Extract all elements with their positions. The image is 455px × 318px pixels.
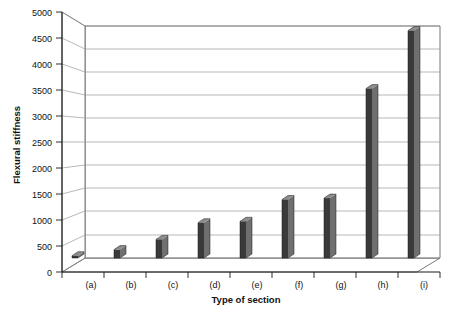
y-tick-label-5000: 5000 [32, 8, 52, 18]
bar-c [156, 235, 168, 258]
y-tick-label-2500: 2500 [32, 138, 52, 148]
x-tick-label-i: (i) [420, 280, 428, 290]
x-tick-label-f: (f) [295, 280, 304, 290]
bar-d [198, 219, 210, 258]
bar-g [324, 194, 336, 258]
x-tick-label-e: (e) [252, 280, 263, 290]
y-tick-label-3500: 3500 [32, 86, 52, 96]
y-tick-label-1500: 1500 [32, 190, 52, 200]
y-axis-title: Flexural stiffness [11, 106, 22, 184]
x-tick-label-c: (c) [168, 280, 179, 290]
x-tick-label-h: (h) [378, 280, 389, 290]
bar-f [282, 196, 294, 259]
y-tick-label-0: 0 [47, 268, 52, 278]
bar-e [240, 217, 252, 258]
x-tick-label-b: (b) [126, 280, 137, 290]
x-axis-title: Type of section [212, 294, 281, 305]
y-tick-label-1000: 1000 [32, 216, 52, 226]
y-tick-label-500: 500 [37, 242, 52, 252]
flexural-stiffness-bar-chart: 5000 4500 4000 3500 3000 2500 2000 1500 … [0, 0, 455, 318]
x-tick-label-d: (d) [210, 280, 221, 290]
x-tick-label-g: (g) [336, 280, 347, 290]
chart-canvas: 5000 4500 4000 3500 3000 2500 2000 1500 … [0, 0, 455, 318]
plot-floor [62, 258, 440, 272]
x-tick-label-a: (a) [86, 280, 97, 290]
y-tick-label-3000: 3000 [32, 112, 52, 122]
y-tick-label-4500: 4500 [32, 34, 52, 44]
y-axis-ticks [56, 12, 62, 272]
bar-h [366, 85, 378, 258]
x-axis-ticks [62, 272, 440, 278]
y-tick-label-2000: 2000 [32, 164, 52, 174]
bar-i [408, 27, 420, 258]
y-tick-label-4000: 4000 [32, 60, 52, 70]
